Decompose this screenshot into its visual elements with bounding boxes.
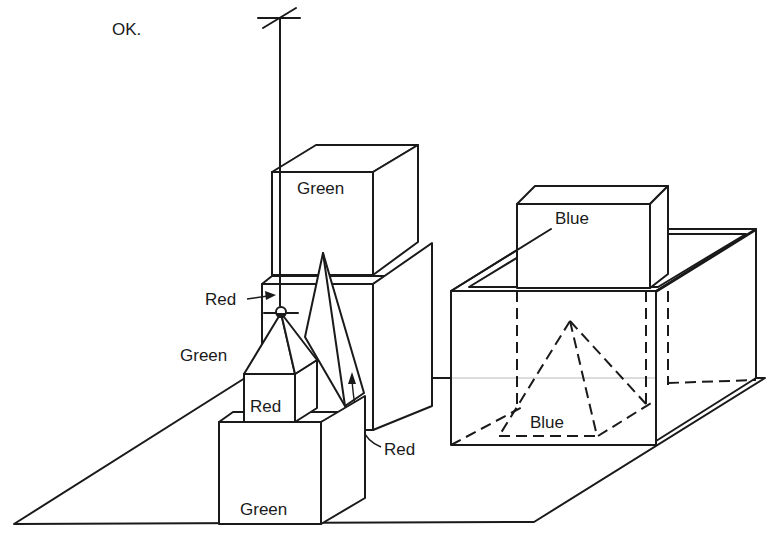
blue-block-label: Blue [555, 209, 589, 228]
green-block-large: Green [272, 145, 418, 275]
green-pyramid-label: Green [180, 346, 227, 365]
red-cube-label: Red [250, 397, 281, 416]
red-pyramid-label: Red [384, 440, 415, 459]
response-text: OK. [112, 20, 141, 39]
green-block-label: Green [297, 179, 344, 198]
blocks-world-diagram: OK. Blue Blue [0, 0, 769, 535]
blue-pyramid-label: Blue [530, 413, 564, 432]
green-front-label: Green [240, 500, 287, 519]
red-ball-label: Red [205, 290, 236, 309]
